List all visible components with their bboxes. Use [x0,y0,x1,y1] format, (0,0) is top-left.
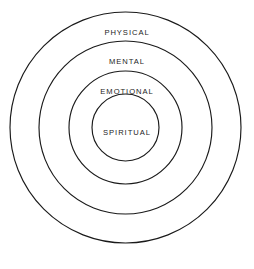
concentric-circles-diagram: PHYSICAL MENTAL EMOTIONAL SPIRITUAL [0,0,254,269]
ring-label-spiritual: SPIRITUAL [0,129,254,137]
ring-label-emotional: EMOTIONAL [0,88,254,96]
ring-label-physical: PHYSICAL [0,29,254,37]
ring-label-mental: MENTAL [0,58,254,66]
